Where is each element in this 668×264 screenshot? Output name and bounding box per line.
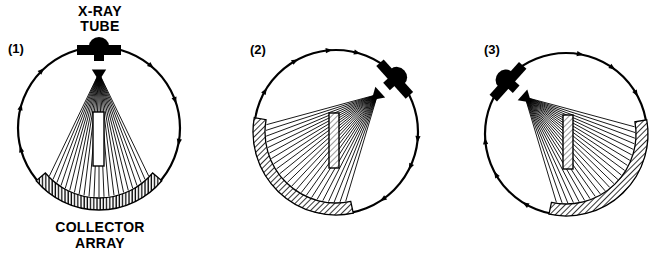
collimator-wedge: [372, 87, 385, 100]
panel-number-1: (1): [8, 42, 24, 55]
patient-phantom: [563, 115, 573, 169]
rotation-arrow-icon: [482, 137, 488, 144]
xray-tube-label-line2: TUBE: [68, 19, 132, 33]
xray-tube-icon: [77, 37, 121, 61]
panel-number-3: (3): [484, 43, 500, 56]
scanner-panel-2: [253, 47, 421, 215]
rotation-arrow-icon: [415, 136, 421, 143]
patient-phantom: [93, 112, 104, 166]
xray-tube-label: X-RAY TUBE: [68, 4, 132, 33]
xray-tube-label-line1: X-RAY: [68, 4, 132, 18]
rotation-arrow-icon: [325, 47, 332, 53]
patient-phantom: [329, 113, 339, 168]
collector-array-label-line1: COLLECTOR: [40, 220, 160, 234]
xray-ray: [317, 95, 378, 200]
collector-array-label: COLLECTOR ARRAY: [40, 220, 160, 250]
collector-array-label-line2: ARRAY: [40, 236, 160, 250]
scanner-panel-3: [482, 51, 648, 216]
panel-number-2: (2): [250, 43, 266, 56]
xray-ray: [525, 97, 585, 200]
collimator-wedge: [92, 69, 106, 81]
collimator-wedge: [518, 89, 531, 102]
scanner-panel-1: [17, 37, 182, 210]
ct-scanner-figure: X-RAY TUBE COLLECTOR ARRAY (1) (2) (3): [0, 0, 668, 264]
